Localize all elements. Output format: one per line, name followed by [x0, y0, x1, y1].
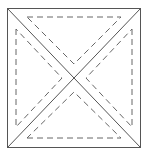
- dashed-triangle-bottom: [27, 92, 121, 138]
- dashed-triangle-top: [27, 17, 121, 64]
- dashed-triangle-right: [86, 29, 132, 127]
- diagram-canvas: [0, 0, 147, 158]
- dashed-triangle-left: [16, 29, 62, 127]
